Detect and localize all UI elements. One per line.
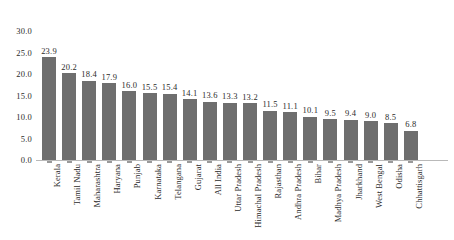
x-axis-tick-mark [328, 161, 333, 163]
x-axis-label-slot: Chhattisgarh [404, 164, 418, 240]
bar[interactable] [384, 123, 398, 160]
bar[interactable] [42, 57, 56, 160]
bar-group[interactable]: 9.5 [323, 119, 337, 160]
bar-value-label: 9.4 [345, 109, 356, 118]
bar-group[interactable]: 8.5 [384, 123, 398, 160]
x-axis-category-label: Uttar Pradesh [234, 164, 243, 212]
x-axis-category-label: Karnataka [154, 164, 163, 200]
bar-value-label: 23.9 [41, 47, 57, 56]
bar[interactable] [102, 83, 116, 160]
bar-value-label: 8.5 [385, 113, 396, 122]
y-axis-tick-label: 15.0 [16, 91, 32, 100]
bar[interactable] [223, 103, 237, 160]
x-axis-label-slot: Gujarat [183, 164, 197, 240]
x-axis-tick-mark [167, 161, 172, 163]
x-axis-label-slot: Uttar Pradesh [223, 164, 237, 240]
bar-group[interactable]: 9.4 [344, 120, 358, 160]
x-axis-category-label: Chhattisgarh [415, 164, 424, 209]
x-axis-tick-mark [67, 161, 72, 163]
bar[interactable] [163, 94, 177, 160]
bar-value-label: 13.2 [242, 93, 258, 102]
x-axis-label-slot: Haryana [102, 164, 116, 240]
bar-chart: 30.025.020.015.010.05.00.0 23.9Kerala20.… [0, 0, 454, 240]
bar-group[interactable]: 18.4 [82, 81, 96, 160]
bar-group[interactable]: 13.3 [223, 103, 237, 160]
x-axis-label-slot: Karnataka [143, 164, 157, 240]
bar-value-label: 11.1 [283, 102, 298, 111]
x-axis-category-label: Himachal Pradesh [254, 164, 263, 228]
x-axis-label-slot: Andhra Pradesh [283, 164, 297, 240]
bar-group[interactable]: 13.2 [243, 103, 257, 160]
bar[interactable] [82, 81, 96, 160]
x-axis-label-slot: Himachal Pradesh [243, 164, 257, 240]
x-axis-category-label: Bihar [314, 164, 323, 183]
bar-group[interactable]: 15.4 [163, 94, 177, 160]
x-axis-tick-mark [288, 161, 293, 163]
bar-group[interactable]: 20.2 [62, 73, 76, 160]
bar[interactable] [243, 103, 257, 160]
bar-value-label: 15.4 [162, 83, 178, 92]
bar-value-label: 20.2 [61, 63, 77, 72]
x-axis-category-label: Kerala [53, 164, 62, 187]
bar-value-label: 13.6 [202, 91, 218, 100]
bar-value-label: 15.5 [142, 83, 158, 92]
bar-group[interactable]: 23.9 [42, 57, 56, 160]
x-axis-tick-mark [368, 161, 373, 163]
bar[interactable] [283, 112, 297, 160]
x-axis-category-label: West Bengal [375, 164, 384, 208]
x-axis-label-slot: Kerala [42, 164, 56, 240]
x-axis-tick-mark [308, 161, 313, 163]
x-axis-category-label: Jharkhand [355, 164, 364, 200]
bar[interactable] [404, 131, 418, 160]
x-axis-label-slot: Madhya Pradesh [323, 164, 337, 240]
bar-group[interactable]: 15.5 [143, 93, 157, 160]
bar-value-label: 11.5 [262, 100, 277, 109]
x-axis-category-label: Punjab [133, 164, 142, 188]
y-axis: 30.025.020.015.010.05.00.0 [0, 0, 36, 240]
x-axis-tick-mark [207, 161, 212, 163]
x-axis-category-label: Madhya Pradesh [334, 164, 343, 222]
x-axis-label-slot: Odisha [384, 164, 398, 240]
x-axis-category-label: Tamil Nadu [73, 164, 82, 205]
bar-group[interactable]: 13.6 [203, 102, 217, 160]
x-axis-category-label: Andhra Pradesh [294, 164, 303, 220]
y-axis-tick-label: 5.0 [21, 134, 32, 143]
bar-group[interactable]: 11.5 [263, 111, 277, 160]
bar[interactable] [183, 99, 197, 160]
bar[interactable] [344, 120, 358, 160]
bar-value-label: 18.4 [81, 70, 97, 79]
bar-group[interactable]: 14.1 [183, 99, 197, 160]
x-axis-label-slot: Punjab [122, 164, 136, 240]
bar[interactable] [303, 117, 317, 160]
x-axis-category-label: Odisha [395, 164, 404, 189]
bar-group[interactable]: 17.9 [102, 83, 116, 160]
bar[interactable] [122, 91, 136, 160]
bar-group[interactable]: 11.1 [283, 112, 297, 160]
bar-value-label: 6.8 [405, 120, 416, 129]
x-axis-label-slot: Bihar [303, 164, 317, 240]
x-axis-tick-mark [348, 161, 353, 163]
bar-group[interactable]: 10.1 [303, 117, 317, 160]
x-axis-category-label: Telangana [174, 164, 183, 200]
bar-value-label: 9.0 [365, 111, 376, 120]
x-axis-category-label: Rajasthan [274, 164, 283, 198]
bar-group[interactable]: 9.0 [364, 121, 378, 160]
bar-group[interactable]: 16.0 [122, 91, 136, 160]
bar[interactable] [323, 119, 337, 160]
bar[interactable] [263, 111, 277, 160]
plot-area: 23.9Kerala20.2Tamil Nadu18.4Maharashtra1… [36, 12, 454, 148]
y-axis-tick-label: 30.0 [16, 27, 32, 36]
bar-group[interactable]: 6.8 [404, 131, 418, 160]
x-axis-tick-mark [47, 161, 52, 163]
bar[interactable] [143, 93, 157, 160]
bar-value-label: 14.1 [182, 89, 198, 98]
bar-value-label: 16.0 [122, 81, 138, 90]
bar[interactable] [364, 121, 378, 160]
x-axis-label-slot: All India [203, 164, 217, 240]
x-axis-label-slot: West Bengal [364, 164, 378, 240]
bar[interactable] [62, 73, 76, 160]
bar[interactable] [203, 102, 217, 160]
x-axis-label-slot: Maharashtra [82, 164, 96, 240]
x-axis-label-slot: Rajasthan [263, 164, 277, 240]
x-axis-tick-mark [388, 161, 393, 163]
